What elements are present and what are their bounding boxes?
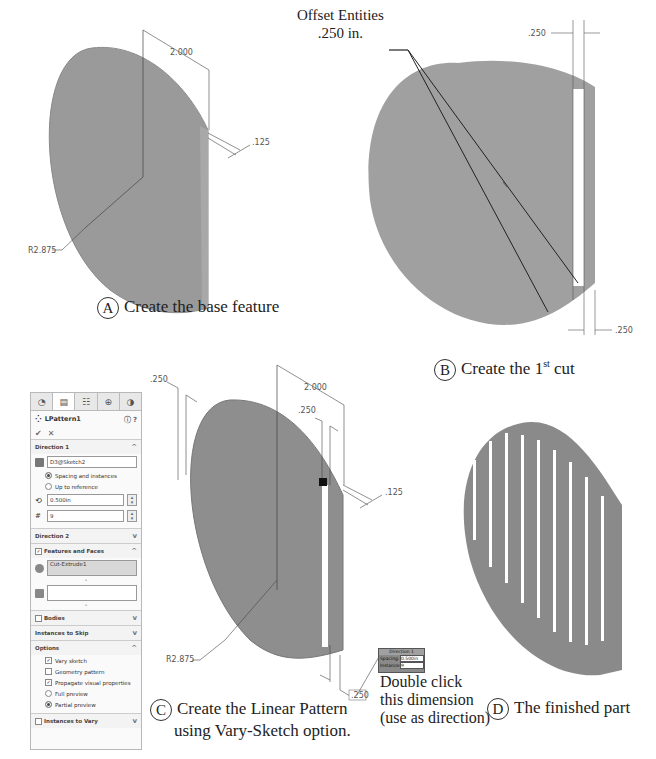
bodies-checkbox[interactable] (35, 615, 42, 622)
section-direction-2[interactable]: Direction 2v (31, 528, 141, 543)
panel-c-dim-direction[interactable]: .250 (351, 691, 369, 700)
panel-d-caption: DThe finished part (487, 698, 630, 720)
radio-partial-preview[interactable]: Partial preview (31, 699, 141, 710)
chevron-up-icon: ^ (131, 443, 137, 451)
direction-popup: Direction 1 Spacing:0.500in Instances:9 (378, 648, 425, 673)
tab-configuration-manager[interactable]: ☷ (75, 393, 97, 410)
features-checkbox[interactable]: ✓ (35, 548, 42, 555)
cancel-button[interactable]: ✕ (48, 429, 55, 438)
feature-item[interactable]: Cut-Extrude1 (50, 561, 86, 567)
section-instances-to-vary[interactable]: Instances to Varyv (31, 713, 141, 728)
popup-instances-field[interactable]: 9 (400, 662, 424, 669)
faces-icon (35, 589, 44, 598)
direction-reference-field[interactable]: D3@Sketch2 (47, 456, 137, 468)
radio-selected-icon (45, 472, 52, 479)
panel-c-dim-left: .250 (150, 375, 168, 384)
panel-b-callout: Offset Entities .250 in. (297, 6, 384, 42)
configuration-manager-icon: ☷ (82, 397, 90, 407)
property-manager-icon: ▤ (60, 397, 69, 407)
linear-pattern-icon: ⁘ (35, 415, 42, 424)
callout-line-2: .250 in. (297, 24, 384, 42)
section-features-and-faces[interactable]: ✓ Features and Faces^ (31, 543, 141, 558)
vary-checkbox[interactable] (35, 718, 42, 725)
spacing-stepper[interactable]: ▴▾ (127, 494, 137, 506)
chevron-up-icon: ^ (131, 547, 137, 555)
section-instances-to-skip[interactable]: Instances to Skipv (31, 625, 141, 640)
panel-a-part (49, 30, 250, 313)
panel-c-dim-width: 2.000 (304, 383, 327, 392)
checkbox-propagate-visual[interactable]: ✓Propagate visual properties (31, 677, 141, 688)
checkbox-vary-sketch[interactable]: ✓Vary sketch (31, 655, 141, 666)
radio-up-to-reference[interactable]: Up to reference (31, 481, 141, 492)
panel-c-part (167, 365, 382, 700)
chevron-down-icon: v (132, 614, 137, 622)
section-direction-1[interactable]: Direction 1^ (31, 439, 141, 454)
panel-a-dim-radius: R2.875 (28, 246, 56, 255)
pm-header: ⁘ LPattern1 ⓘ ? (31, 411, 141, 427)
panel-a-caption: ACreate the base feature (97, 297, 279, 319)
instances-icon: # (35, 512, 44, 521)
feature-manager-icon: ◔ (38, 397, 46, 407)
panel-d-part (464, 422, 622, 675)
pm-actions: ✔ ✕ (31, 427, 141, 439)
callout-line-1: Offset Entities (297, 6, 384, 24)
panel-b-caption: BCreate the 1st cut (434, 358, 575, 381)
panel-c-dim-thickness: .125 (385, 488, 403, 497)
panel-c-note: Double click this dimension (use as dire… (380, 673, 490, 727)
features-list[interactable]: Cut-Extrude1 (47, 560, 137, 576)
panel-a-dim-thickness: .125 (252, 138, 270, 147)
panel-b-dim-top: .250 (528, 29, 546, 38)
pm-title: LPattern1 (45, 415, 81, 423)
checkbox-geometry-pattern[interactable]: Geometry pattern (31, 666, 141, 677)
chevron-up-icon: ^ (131, 644, 137, 652)
tab-property-manager[interactable]: ▤ (53, 393, 75, 410)
display-manager-icon: ◑ (126, 397, 134, 407)
panel-b-part (368, 20, 612, 335)
instances-stepper[interactable]: ▴▾ (127, 510, 137, 522)
radio-spacing-and-instances[interactable]: Spacing and instances (31, 470, 141, 481)
radio-full-preview[interactable]: Full preview (31, 688, 141, 699)
features-icon (35, 564, 44, 573)
section-options[interactable]: Options^ (31, 640, 141, 655)
linear-pattern-property-manager: ◔ ▤ ☷ ⊕ ◑ ⁘ LPattern1 ⓘ ? ✔ ✕ Direction … (30, 392, 142, 750)
panel-a-label: A (97, 297, 119, 319)
ok-button[interactable]: ✔ (35, 429, 42, 438)
instances-input[interactable]: 9 (47, 510, 124, 522)
panel-c-dim-radius: R2.875 (166, 655, 194, 664)
chevron-down-icon: v (132, 532, 137, 540)
spacing-input[interactable]: 0.500in (47, 494, 124, 506)
tab-dimxpert[interactable]: ⊕ (98, 393, 120, 410)
panel-d-label: D (487, 698, 509, 720)
manager-tabs: ◔ ▤ ☷ ⊕ ◑ (31, 393, 141, 411)
chevron-down-icon: v (132, 717, 137, 725)
checked-icon: ✓ (45, 657, 52, 664)
panel-c-dim-slot: .250 (298, 406, 316, 415)
tab-feature-manager[interactable]: ◔ (31, 393, 53, 410)
tab-display-manager[interactable]: ◑ (120, 393, 141, 410)
radio-icon (45, 483, 52, 490)
panel-b-dim-bottom: .250 (615, 326, 633, 335)
spacing-icon: ⟲ (35, 496, 44, 505)
dimxpert-icon: ⊕ (104, 397, 112, 407)
panel-a-dim-width: 2.000 (170, 48, 193, 57)
help-icon[interactable]: ⓘ ? (124, 414, 138, 424)
panel-c-caption: CCreate the Linear Pattern using Vary-Sk… (150, 699, 351, 740)
reverse-direction-icon[interactable] (35, 458, 44, 467)
chevron-down-icon: v (132, 629, 137, 637)
faces-list[interactable] (47, 585, 137, 601)
popup-spacing-field[interactable]: 0.500in (400, 655, 424, 662)
panel-c-label: C (150, 699, 172, 721)
checked-icon: ✓ (45, 679, 52, 686)
section-bodies[interactable]: Bodiesv (31, 610, 141, 625)
panel-b-label: B (434, 359, 456, 381)
